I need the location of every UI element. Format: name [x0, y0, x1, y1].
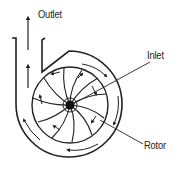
inlet-hub: [66, 101, 75, 110]
inlet-label: Inlet: [147, 50, 164, 61]
rotor-label: Rotor: [144, 140, 166, 151]
inlet-leader-line: [73, 62, 150, 104]
outlet-label: Outlet: [38, 9, 62, 20]
